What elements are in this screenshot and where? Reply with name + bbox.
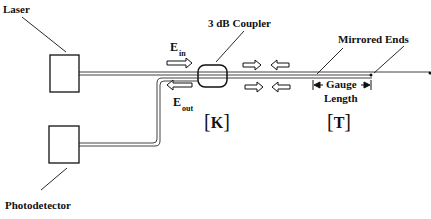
- photodetector-box: [49, 126, 79, 163]
- mirrored-ends-label: Mirrored Ends: [338, 34, 409, 45]
- upper-fiber: [79, 72, 430, 75]
- coupler-leader: [216, 31, 244, 62]
- photodetector-leader: [41, 168, 67, 190]
- e-out-arrow-icon: [167, 80, 192, 90]
- length-label: Length: [324, 93, 358, 104]
- backward-arrow-icon: [271, 60, 289, 70]
- backward-arrow-icon: [272, 82, 290, 92]
- photodetector-label: Photodetector: [5, 200, 71, 211]
- forward-arrow-icon: [243, 60, 261, 70]
- mirrored-leader-1: [317, 48, 343, 74]
- e-in-label: Ein: [170, 41, 186, 53]
- laser-leader: [22, 17, 66, 52]
- e-out-label: Eout: [173, 96, 193, 108]
- laser-box: [50, 55, 79, 92]
- laser-label: Laser: [3, 4, 30, 15]
- t-matrix-label: [T]: [327, 111, 351, 131]
- mirror-end-1: [370, 74, 373, 77]
- coupler-label: 3 dB Coupler: [208, 18, 271, 29]
- gauge-label: Gauge: [326, 79, 357, 90]
- e-in-arrow-icon: [167, 58, 192, 68]
- k-matrix-label: [K]: [204, 111, 230, 131]
- coupler-icon: [198, 65, 227, 87]
- mirrored-leader-2: [374, 46, 404, 73]
- forward-arrow-icon: [245, 82, 263, 92]
